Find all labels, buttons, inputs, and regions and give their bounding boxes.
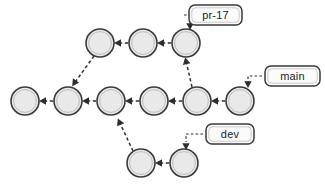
edge-dev2-to-dev1 <box>155 159 169 167</box>
ref-labels-layer: pr-17 main dev <box>189 5 320 144</box>
graph-canvas: pr-17 main dev <box>0 0 325 184</box>
edge-main2-to-main1 <box>39 97 53 105</box>
ref-label-main[interactable]: main <box>265 66 320 86</box>
edge-main3-to-main2 <box>82 97 96 105</box>
ref-label-pr-17-text: pr-17 <box>202 9 229 21</box>
commit-node-pr17-3[interactable] <box>172 29 200 57</box>
commit-node-main-3[interactable] <box>97 87 125 115</box>
edge-pr17-1-to-main2 <box>72 56 94 86</box>
commit-node-main-5[interactable] <box>183 87 211 115</box>
ref-label-dev-text: dev <box>221 128 240 140</box>
edge-main5-to-main4 <box>168 97 182 105</box>
edge-main4-to-main3 <box>125 97 139 105</box>
ref-label-pr-17[interactable]: pr-17 <box>189 5 242 25</box>
commit-node-pr17-1[interactable] <box>86 29 114 57</box>
commit-node-main-6[interactable] <box>226 87 254 115</box>
ref-connector-dev <box>182 134 203 150</box>
commit-node-main-1[interactable] <box>11 87 39 115</box>
edge-pr17-2-to-pr17-1 <box>114 39 128 47</box>
commit-node-dev-2[interactable] <box>170 149 198 177</box>
edge-main5-to-pr17-3 <box>183 57 192 87</box>
ref-connector-main <box>244 76 262 88</box>
ref-label-main-text: main <box>280 70 305 82</box>
ref-label-dev[interactable]: dev <box>206 124 254 144</box>
edge-dev1-to-main3 <box>117 118 133 151</box>
commit-node-main-4[interactable] <box>140 87 168 115</box>
commit-node-dev-1[interactable] <box>127 149 155 177</box>
edge-pr17-3-to-pr17-2 <box>157 39 171 47</box>
commit-graph-diagram: pr-17 main dev <box>0 0 325 184</box>
edge-main6-to-main5 <box>211 97 225 105</box>
commit-node-pr17-2[interactable] <box>129 29 157 57</box>
commit-node-main-2[interactable] <box>54 87 82 115</box>
